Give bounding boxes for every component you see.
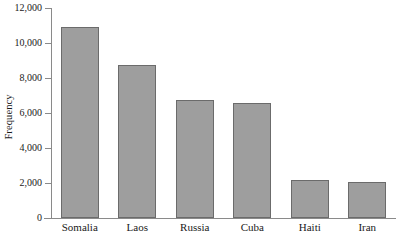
y-axis-tick-label: 12,000	[0, 3, 42, 13]
y-axis-tick-label: 0	[0, 213, 42, 223]
bar-haiti	[291, 180, 329, 218]
y-axis-tick-label: 2,000	[0, 178, 42, 188]
bar-somalia	[61, 27, 99, 218]
bar-cuba	[233, 103, 271, 218]
y-axis-tick-mark	[45, 218, 51, 219]
y-axis-tick-label: 8,000	[0, 73, 42, 83]
bar-chart-figure: Frequency 02,0004,0006,0008,00010,00012,…	[0, 0, 402, 234]
y-axis-tick-label: 10,000	[0, 38, 42, 48]
bar-russia	[176, 100, 214, 218]
y-axis-tick-label: 4,000	[0, 143, 42, 153]
bar-iran	[348, 182, 386, 218]
x-axis-tick-label-iran: Iran	[327, 221, 402, 234]
y-axis-tick-label: 6,000	[0, 108, 42, 118]
x-axis-line	[44, 218, 396, 219]
bar-laos	[118, 65, 156, 218]
bar-series	[51, 8, 396, 218]
